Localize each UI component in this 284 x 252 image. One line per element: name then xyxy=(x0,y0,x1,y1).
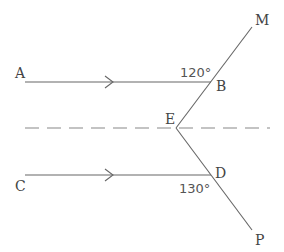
diagram-canvas: A B C D E M P 120° 130° xyxy=(0,0,284,252)
label-c: C xyxy=(15,178,26,194)
label-m: M xyxy=(255,12,269,28)
label-a: A xyxy=(14,65,26,81)
label-e: E xyxy=(165,111,175,127)
angle-label-b: 120° xyxy=(180,65,211,80)
label-d: D xyxy=(215,165,226,181)
line-ep xyxy=(176,128,252,230)
angle-label-d: 130° xyxy=(179,181,210,196)
label-b: B xyxy=(216,78,226,94)
label-p: P xyxy=(255,232,264,248)
